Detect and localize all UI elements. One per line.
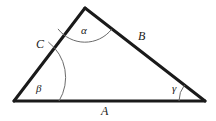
angle-label-beta: β [36,83,41,94]
angle-label-alpha: α [81,25,87,36]
triangle-diagram: A B C α β γ [0,0,216,121]
triangle-figure [0,0,216,121]
angle-label-gamma: γ [172,83,176,94]
side-label-a: A [101,105,108,117]
side-label-b: B [138,30,145,42]
triangle-interior [14,8,205,101]
side-label-c: C [36,38,44,50]
